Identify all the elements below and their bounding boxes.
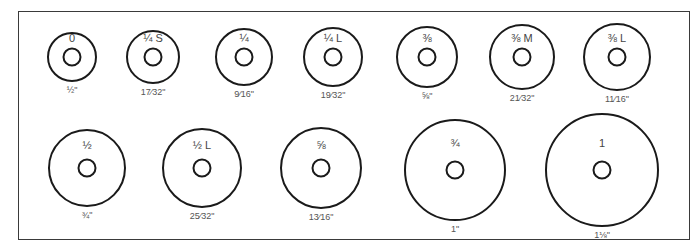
washer-size-label: ½ L — [193, 139, 211, 151]
outer-diameter-label: 21⁄32" — [510, 93, 535, 103]
washer-size-label: ½ — [82, 139, 91, 151]
washer-hole-circle — [64, 49, 81, 66]
washer-hole-circle — [194, 160, 211, 177]
washer-hole-circle — [145, 49, 162, 66]
outer-diameter-label: 11⁄16" — [605, 94, 629, 104]
washer-size-label: ⅜ M — [511, 32, 532, 44]
washer-hole-circle — [325, 49, 342, 66]
washer-hole-circle — [594, 162, 611, 179]
washer-diagram — [543, 111, 661, 229]
outer-diameter-label: 13⁄16" — [309, 212, 334, 222]
outer-diameter-label: 9⁄16" — [234, 89, 254, 99]
outer-diameter-label: 19⁄32" — [321, 90, 346, 100]
washer-size-label: ¼ L — [324, 32, 342, 44]
washer-diagram — [402, 117, 508, 223]
outer-diameter-label: ½" — [67, 85, 78, 95]
outer-diameter-label: 1⅛" — [594, 230, 610, 240]
washer-hole-circle — [313, 160, 330, 177]
washer-size-label: ⅜ L — [608, 32, 626, 44]
outer-diameter-label: ⅝" — [422, 91, 433, 101]
washer-size-label: ¼ — [239, 32, 248, 44]
washer-hole-circle — [609, 49, 626, 66]
washer-chart: 0½"¼ S17⁄32"¼9⁄16"¼ L19⁄32"⅜⅝"⅜ M21⁄32"⅜… — [0, 0, 700, 249]
outer-diameter-label: ¾" — [82, 210, 93, 220]
washer-hole-circle — [514, 49, 531, 66]
outer-diameter-label: 17⁄32" — [141, 87, 166, 97]
washer-hole-circle — [79, 160, 96, 177]
washer-outer-circle — [405, 120, 505, 220]
washer-size-label: ¾ — [450, 137, 459, 149]
outer-diameter-label: 1" — [451, 224, 459, 234]
washer-hole-circle — [447, 162, 464, 179]
washer-hole-circle — [236, 49, 253, 66]
washer-size-label: 1 — [599, 137, 605, 149]
washer-outer-circle — [546, 114, 658, 226]
washer-size-label: ⅜ — [422, 32, 431, 44]
washer-hole-circle — [419, 49, 436, 66]
washer-size-label: ⅝ — [316, 139, 325, 151]
washer-size-label: 0 — [69, 32, 75, 44]
washer-size-label: ¼ S — [143, 32, 163, 44]
outer-diameter-label: 25⁄32" — [190, 211, 215, 221]
